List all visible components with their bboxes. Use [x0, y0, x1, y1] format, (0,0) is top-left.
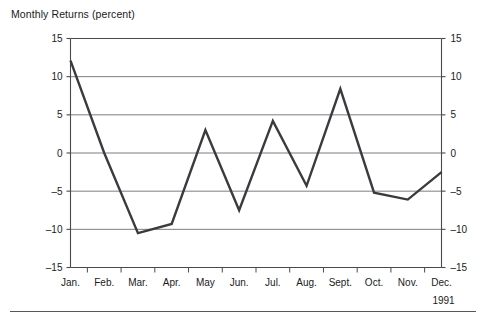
y-axis-tick-label-right: 5: [451, 109, 457, 120]
y-axis-tick-label-right: 10: [451, 71, 463, 82]
y-axis-tick-label-left: 0: [57, 148, 63, 159]
x-axis-tick-label: Apr.: [163, 277, 181, 288]
x-axis-tick-label: Sept.: [329, 277, 352, 288]
chart-figure: Monthly Returns (percent) 151050–5–10–15…: [0, 0, 487, 325]
y-axis-tick-label-right: –15: [451, 262, 468, 273]
year-label-text: 1991: [432, 295, 455, 306]
y-axis-tick-label-right: 15: [451, 33, 463, 44]
data-series-line: [71, 61, 442, 234]
series-polyline: [71, 61, 442, 234]
y-axis-tick-label-left: –5: [51, 186, 63, 197]
x-axis-tick-label: Jul.: [265, 277, 281, 288]
x-axis-tick-label: Dec.: [431, 277, 452, 288]
footer-divider: [10, 311, 476, 312]
x-axis-tick-label: Aug.: [296, 277, 317, 288]
x-axis-tick-label: Mar.: [128, 277, 147, 288]
y-axis-tick-label-left: 15: [51, 33, 63, 44]
x-axis-tick-label: Feb.: [94, 277, 114, 288]
y-axis-tick-label-right: –5: [451, 186, 463, 197]
y-axis-tick-label-left: 10: [51, 71, 63, 82]
y-axis-tick-label-right: 0: [451, 148, 457, 159]
x-axis-tick-label: Oct.: [365, 277, 383, 288]
x-axis-labels: Jan.Feb.Mar.Apr.MayJun.Jul.Aug.Sept.Oct.…: [61, 277, 452, 288]
y-axis-tick-label-right: –10: [451, 224, 468, 235]
x-axis-tick-label: Jan.: [61, 277, 80, 288]
x-tick-marks-group: [87, 268, 424, 273]
y-axis-tick-label-left: –10: [46, 224, 63, 235]
y-axis-left-labels: 151050–5–10–15: [46, 33, 63, 273]
x-axis-tick-label: May: [196, 277, 215, 288]
y-axis-tick-label-left: –15: [46, 262, 63, 273]
chart-plot-area: 151050–5–10–15 151050–5–10–15 Jan.Feb.Ma…: [0, 0, 487, 325]
y-axis-tick-label-left: 5: [57, 109, 63, 120]
y-axis-right-labels: 151050–5–10–15: [451, 33, 468, 273]
x-axis-tick-label: Jun.: [230, 277, 249, 288]
x-axis-tick-label: Nov.: [398, 277, 418, 288]
x-axis-year-label: 1991: [432, 295, 455, 306]
